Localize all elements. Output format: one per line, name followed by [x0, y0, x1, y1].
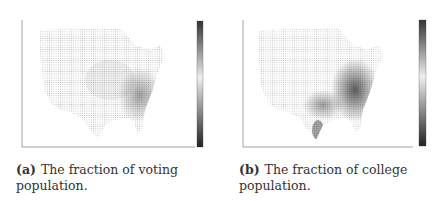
caption-label: (a): [16, 162, 36, 177]
caption-text: The fraction of voting population.: [16, 162, 178, 193]
caption-text: The fraction of college population.: [239, 162, 407, 193]
us-map-college-chart: [223, 0, 446, 160]
caption-a: (a)The fraction of voting population.: [16, 162, 216, 194]
us-map-voting-chart: [0, 0, 223, 160]
caption-b: (b)The fraction of college population.: [239, 162, 439, 194]
caption-label: (b): [239, 162, 260, 177]
figure-panel-b: (b)The fraction of college population.: [223, 0, 446, 201]
figure-panel-a: (a)The fraction of voting population.: [0, 0, 223, 201]
colorbar: [197, 21, 203, 147]
colorbar: [419, 20, 426, 146]
